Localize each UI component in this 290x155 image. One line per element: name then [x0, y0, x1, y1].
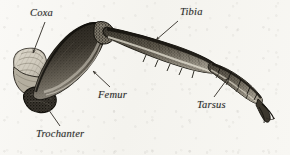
segment-tarsus: [208, 63, 275, 123]
tarsal-claw: [256, 99, 275, 123]
label-trochanter: Trochanter: [36, 129, 84, 140]
insect-leg-figure: Coxa Trochanter Femur Tibia Tarsus: [0, 0, 290, 155]
segment-tibia: [103, 27, 218, 78]
arrow-tibia: [156, 21, 178, 40]
label-coxa: Coxa: [30, 8, 53, 19]
arrow-trochanter: [46, 106, 60, 126]
arrow-coxa: [33, 22, 45, 53]
arrow-tarsus: [214, 78, 228, 97]
arrow-femur: [93, 71, 110, 87]
label-femur: Femur: [98, 90, 127, 101]
label-tarsus: Tarsus: [197, 100, 226, 111]
label-tibia: Tibia: [180, 7, 203, 18]
